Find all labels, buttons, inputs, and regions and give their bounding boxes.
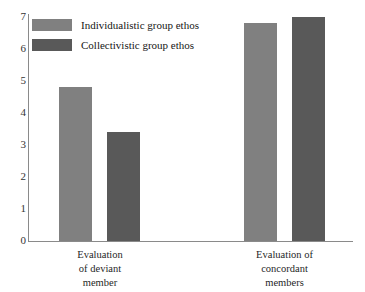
legend-item-label: Collectivistic group ethos — [81, 39, 194, 51]
y-axis-tick-labels: 7 6 5 4 3 2 1 0 — [0, 0, 26, 292]
y-tick-label: 3 — [2, 139, 26, 150]
category-label-line: Evaluation — [49, 248, 151, 262]
legend-swatch-icon — [32, 39, 72, 51]
x-axis-line — [28, 241, 353, 242]
category-label-line: Evaluation of — [228, 248, 341, 262]
y-tick-label: 2 — [2, 171, 26, 182]
y-axis-line — [28, 14, 29, 242]
chart-legend: Individualistic group ethos Collectivist… — [32, 16, 199, 56]
bar-collectivistic-concordant — [292, 17, 325, 241]
category-label-concordant: Evaluation of concordant members — [228, 248, 341, 290]
legend-item-collectivistic: Collectivistic group ethos — [32, 36, 199, 53]
y-tick-label: 6 — [2, 43, 26, 54]
category-label-line: concordant — [228, 262, 341, 276]
legend-item-label: Individualistic group ethos — [81, 19, 199, 31]
bar-chart: 7 6 5 4 3 2 1 0 Evaluation of deviant me… — [0, 0, 365, 292]
bar-individualistic-deviant — [59, 87, 92, 241]
legend-item-individualistic: Individualistic group ethos — [32, 16, 199, 33]
bar-individualistic-concordant — [244, 23, 277, 241]
category-label-line: member — [49, 276, 151, 290]
y-tick-label: 1 — [2, 203, 26, 214]
category-label-line: of deviant — [49, 262, 151, 276]
category-label-deviant: Evaluation of deviant member — [49, 248, 151, 290]
legend-swatch-icon — [32, 19, 72, 31]
y-tick-label: 7 — [2, 11, 26, 22]
y-tick-label: 5 — [2, 75, 26, 86]
y-tick-label: 0 — [2, 235, 26, 246]
y-tick-label: 4 — [2, 107, 26, 118]
bar-collectivistic-deviant — [107, 132, 140, 241]
category-label-line: members — [228, 276, 341, 290]
